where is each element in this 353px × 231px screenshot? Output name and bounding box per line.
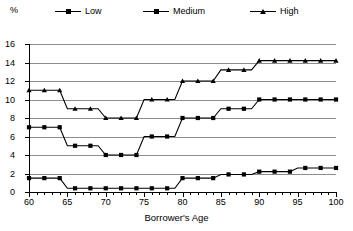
data-point-marker <box>88 144 92 148</box>
chart-legend: % Low Medium High <box>0 0 353 26</box>
data-point-marker <box>104 186 108 190</box>
legend-item-high: High <box>250 5 299 17</box>
legend-label-medium: Medium <box>173 6 205 16</box>
chart-container: % Low Medium High 0246810121416 60657075… <box>0 0 353 231</box>
data-point-marker <box>165 134 169 138</box>
data-point-marker <box>58 176 62 180</box>
legend-square-marker-icon <box>66 9 71 14</box>
data-point-marker <box>303 97 307 101</box>
data-point-marker <box>334 166 338 170</box>
data-point-marker <box>27 125 31 129</box>
data-point-marker <box>196 116 200 120</box>
legend-triangle-marker-icon <box>260 9 266 14</box>
data-point-marker <box>211 176 215 180</box>
data-point-marker <box>273 170 277 174</box>
data-point-marker <box>211 116 215 120</box>
data-point-marker <box>319 97 323 101</box>
data-point-marker <box>288 97 292 101</box>
data-point-marker <box>319 166 323 170</box>
data-point-marker <box>334 97 338 101</box>
data-point-marker <box>226 107 230 111</box>
data-point-marker <box>42 125 46 129</box>
legend-square-marker-icon <box>154 9 159 14</box>
data-point-marker <box>42 176 46 180</box>
data-series-layer <box>0 26 353 231</box>
plot-area: 0246810121416 6065707580859095100 Borrow… <box>0 26 353 231</box>
data-point-marker <box>150 186 154 190</box>
legend-line-low-icon <box>55 11 81 12</box>
x-axis-title: Borrower's Age <box>0 212 353 223</box>
data-point-marker <box>104 153 108 157</box>
data-point-marker <box>134 186 138 190</box>
data-point-marker <box>150 134 154 138</box>
data-point-marker <box>226 172 230 176</box>
data-point-marker <box>257 170 261 174</box>
data-point-marker <box>119 186 123 190</box>
data-point-marker <box>180 116 184 120</box>
data-point-marker <box>58 125 62 129</box>
y-axis-unit-label: % <box>10 5 18 15</box>
data-point-marker <box>165 186 169 190</box>
legend-line-high-icon <box>250 11 276 12</box>
data-point-marker <box>134 153 138 157</box>
legend-label-high: High <box>280 6 299 16</box>
series-low <box>27 166 338 191</box>
data-point-marker <box>242 107 246 111</box>
data-point-marker <box>303 166 307 170</box>
data-point-marker <box>27 176 31 180</box>
legend-item-low: Low <box>55 5 102 17</box>
data-point-marker <box>119 153 123 157</box>
data-point-marker <box>196 176 200 180</box>
data-point-marker <box>257 97 261 101</box>
data-point-marker <box>288 170 292 174</box>
data-point-marker <box>73 186 77 190</box>
series-high <box>26 58 338 120</box>
series-medium <box>27 97 338 157</box>
data-point-marker <box>242 172 246 176</box>
data-point-marker <box>73 144 77 148</box>
legend-label-low: Low <box>85 6 102 16</box>
data-point-marker <box>88 186 92 190</box>
legend-item-medium: Medium <box>143 5 205 17</box>
data-point-marker <box>273 97 277 101</box>
data-point-marker <box>180 176 184 180</box>
legend-line-medium-icon <box>143 11 169 12</box>
